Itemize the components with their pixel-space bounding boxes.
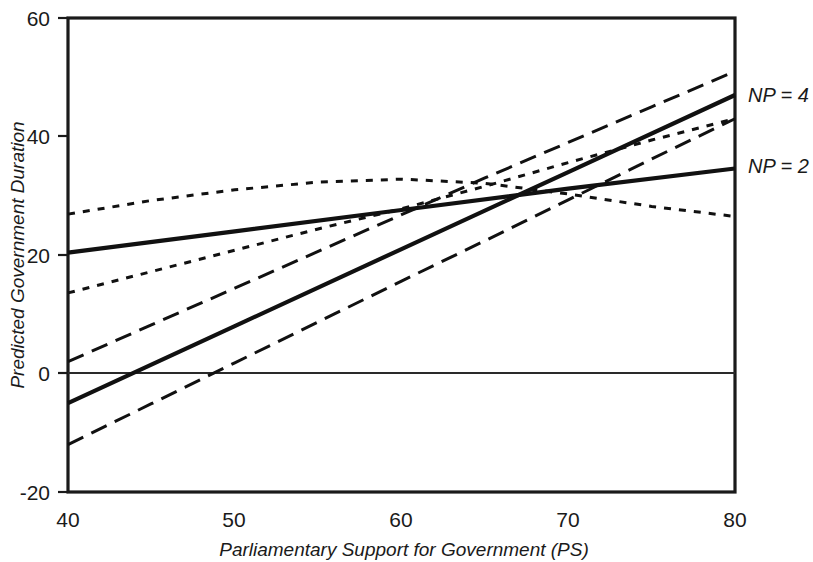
series-label-np2: NP = 2 [748, 155, 809, 177]
series-np-4-upper-confidence-bound [68, 71, 735, 361]
series-np-2 [68, 169, 735, 253]
series-label-np4: NP = 4 [748, 84, 809, 106]
series-layer [68, 71, 735, 444]
x-tick-label-50: 50 [222, 508, 245, 531]
chart-figure: 60 40 20 0 -20 40 50 60 70 80 Parliament… [0, 0, 813, 562]
y-tick-label-neg20: -20 [20, 481, 50, 504]
y-tick-label-20: 20 [27, 244, 50, 267]
x-axis-title: Parliamentary Support for Government (PS… [219, 539, 589, 560]
chart-canvas: 60 40 20 0 -20 40 50 60 70 80 Parliament… [0, 0, 813, 562]
y-tick-label-40: 40 [27, 125, 50, 148]
series-np-2-lower-confidence-bound [68, 119, 735, 293]
series-np-4 [68, 95, 735, 403]
x-tick-label-70: 70 [556, 508, 579, 531]
y-axis-title: Predicted Government Duration [7, 121, 28, 388]
x-tick-label-60: 60 [389, 508, 412, 531]
y-tick-label-0: 0 [38, 362, 50, 385]
series-np-4-lower-confidence-bound [68, 119, 735, 445]
x-tick-label-40: 40 [56, 508, 79, 531]
plot-frame [68, 18, 735, 492]
y-tick-label-60: 60 [27, 7, 50, 30]
x-tick-label-80: 80 [723, 508, 746, 531]
